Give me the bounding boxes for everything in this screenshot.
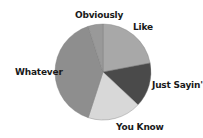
- label-just-sayin: Just Sayin': [152, 80, 203, 90]
- label-you-know: You Know: [116, 122, 164, 132]
- label-like: Like: [133, 22, 153, 32]
- label-obviously: Obviously: [75, 10, 123, 20]
- pie-slices: [55, 24, 151, 120]
- label-whatever: Whatever: [15, 67, 63, 77]
